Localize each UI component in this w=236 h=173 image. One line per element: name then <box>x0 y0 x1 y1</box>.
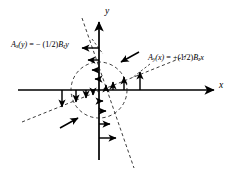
figure-canvas <box>0 0 236 173</box>
field-arrows-y-axis-below <box>99 101 116 138</box>
dashed-line-Ax-of-y <box>82 18 134 168</box>
leader-line-right <box>132 64 150 78</box>
label-left-argument: (y) <box>18 40 27 49</box>
label-left-equals: = − (1/2) <box>29 40 58 49</box>
dashed-line-Ay-of-x <box>22 56 186 122</box>
label-right-argument: (x) <box>155 53 164 62</box>
field-arrows-y-axis-above <box>82 48 99 79</box>
label-left-variable: y <box>65 40 69 49</box>
label-right-variable: x <box>200 53 204 62</box>
field-arrows-x-axis-right <box>106 72 140 90</box>
label-Ax-of-y: Ax(y) = − (1/2)Bzy <box>11 41 69 50</box>
label-Ay-of-x: Ay(x) = +(1/2)Bzx <box>148 54 204 63</box>
y-axis-label: y <box>105 6 109 16</box>
tangent-arrow-upper-right <box>121 52 139 62</box>
tangent-arrow-lower-left <box>60 118 78 128</box>
x-axis-label: x <box>219 80 223 90</box>
label-right-equals: = +(1/2) <box>166 53 193 62</box>
vector-potential-figure: Ax(y) = − (1/2)Bzy Ay(x) = +(1/2)Bzx y x <box>0 0 236 173</box>
